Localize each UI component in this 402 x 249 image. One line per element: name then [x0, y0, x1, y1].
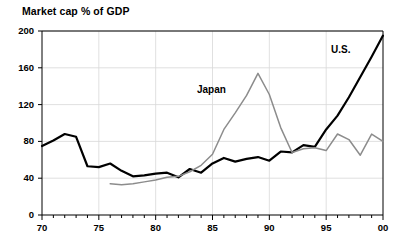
- y-axis-tick-label: 40: [8, 172, 34, 183]
- series-label-us: U.S.: [331, 44, 350, 55]
- y-axis-tick-label: 160: [8, 62, 34, 73]
- x-axis-tick-label: 75: [87, 222, 111, 233]
- x-axis-tick-label: 00: [371, 222, 395, 233]
- axis-ticks: [38, 31, 383, 220]
- x-axis-tick-label: 90: [257, 222, 281, 233]
- x-axis-tick-label: 95: [314, 222, 338, 233]
- chart-figure: Market cap % of GDP Japan U.S. 200160120…: [0, 0, 402, 249]
- y-axis-tick-label: 200: [8, 25, 34, 36]
- x-axis-tick-label: 80: [144, 222, 168, 233]
- chart-plot-area: [0, 0, 402, 249]
- x-axis-tick-label: 70: [30, 222, 54, 233]
- series-label-japan: Japan: [197, 84, 226, 95]
- y-axis-tick-label: 80: [8, 135, 34, 146]
- y-axis-tick-label: 120: [8, 99, 34, 110]
- y-axis-tick-label: 0: [8, 209, 34, 220]
- x-axis-tick-label: 85: [201, 222, 225, 233]
